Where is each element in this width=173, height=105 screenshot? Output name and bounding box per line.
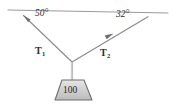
angle-left-label: 50°	[35, 9, 48, 19]
tension-t2-subscript: 2	[107, 52, 110, 59]
angle-right-label: 32°	[116, 10, 129, 20]
tension-t2-symbol: T	[100, 47, 107, 58]
cable-t1-line	[24, 16, 73, 63]
weight-value-label: 100	[63, 86, 77, 96]
ceiling-line	[8, 10, 168, 13]
cable-t2-line	[72, 17, 148, 62]
figure-canvas	[0, 0, 173, 105]
tension-t1-subscript: 1	[42, 50, 45, 57]
tension-t1-label: T1	[35, 46, 45, 56]
tension-t2-label: T2	[100, 48, 110, 58]
physics-figure: 50° 32° T1 T2 100	[0, 0, 173, 105]
tension-t1-symbol: T	[35, 45, 42, 56]
